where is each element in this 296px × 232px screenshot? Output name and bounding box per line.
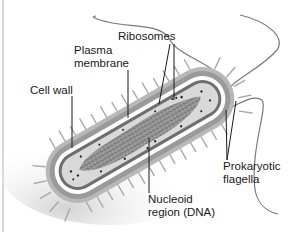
label-cell-wall: Cell wall: [30, 84, 73, 97]
label-nucleoid-line2: region (DNA): [148, 206, 215, 219]
diagram-canvas: Ribosomes Plasma membrane Cell wall Prok…: [0, 0, 296, 232]
label-nucleoid-line1: Nucleoid: [148, 193, 193, 206]
label-flagella-line2: flagella: [223, 173, 259, 186]
label-ribosomes: Ribosomes: [118, 30, 176, 43]
label-flagella-line1: Prokaryotic: [223, 160, 281, 173]
label-plasma-membrane-line1: Plasma: [74, 44, 112, 57]
label-plasma-membrane-line2: membrane: [74, 57, 129, 70]
